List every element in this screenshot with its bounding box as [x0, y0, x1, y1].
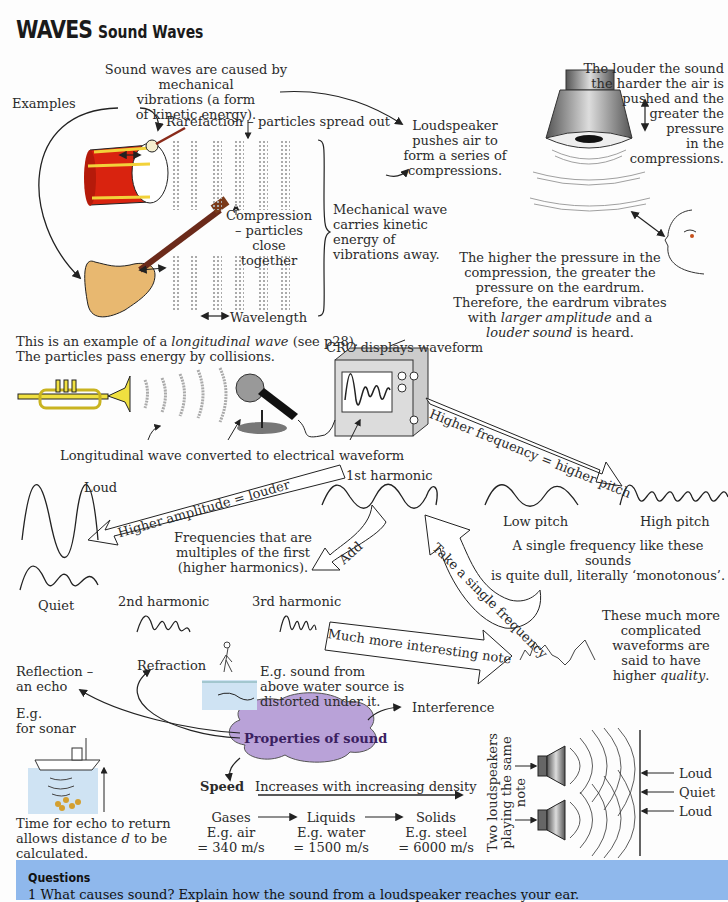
- loud-wave: [22, 485, 98, 558]
- text-line: in the: [560, 136, 724, 151]
- text-span: to be: [130, 831, 167, 846]
- refraction-example: E.g. sound from above water source is di…: [260, 664, 404, 709]
- mechanical-wave-text: Mechanical wave carries kinetic energy o…: [333, 202, 447, 262]
- face-icon: [665, 210, 704, 274]
- medium-speed: = 1500 m/s: [292, 840, 370, 855]
- medium-name: Solids: [396, 810, 476, 825]
- trumpet-icon: [18, 376, 130, 412]
- reflection-label: Reflection – an echo: [16, 664, 93, 694]
- speed-label: Speed: [200, 779, 244, 794]
- text-line: Mechanical wave: [333, 202, 447, 217]
- compression-label: Compression – particles close together: [222, 208, 316, 268]
- text-line: louder sound is heard.: [450, 325, 670, 340]
- text-line: vibrations (a form: [66, 92, 326, 107]
- questions-panel: Questions 1 What causes sound? Explain h…: [16, 860, 728, 900]
- text-line: A single frequency like these sounds: [490, 538, 726, 568]
- text-line: waveforms are: [596, 638, 726, 653]
- text-line: Sound waves are caused by mechanical: [66, 62, 326, 92]
- microphone-icon: [236, 374, 320, 437]
- medium-solids: Solids E.g. steel = 6000 m/s: [396, 810, 476, 855]
- text-line: compressions.: [400, 163, 510, 178]
- louder-text: The louder the sound the harder the air …: [560, 61, 724, 166]
- high-pitch-label: High pitch: [640, 514, 710, 529]
- third-harmonic-label: 3rd harmonic: [252, 594, 341, 609]
- eardrum-text: The higher the pressure in the compressi…: [450, 250, 670, 340]
- monotonous-text: A single frequency like these sounds is …: [490, 538, 726, 583]
- emphasis: louder sound: [486, 325, 572, 340]
- quiet-label: Quiet: [38, 598, 74, 613]
- sonar-label: E.g. for sonar: [16, 706, 76, 736]
- text-line: the harder the air is: [560, 76, 724, 91]
- longitudinal-text: This is an example of a longitudinal wav…: [16, 334, 358, 364]
- emphasis: larger amplitude: [501, 310, 612, 325]
- text-line: distorted under it.: [260, 694, 404, 709]
- interference-loud-2: Loud: [679, 804, 712, 819]
- low-pitch-wave: [485, 485, 578, 506]
- question-1: 1 What causes sound? Explain how the sou…: [28, 887, 579, 902]
- particle-column: [258, 140, 268, 210]
- two-speakers-label: Two loudspeakers playing the same note: [486, 733, 528, 852]
- text-line: allows distance d to be: [16, 831, 171, 846]
- loud-label: Loud: [84, 480, 117, 495]
- text-line: said to have: [596, 653, 726, 668]
- quiet-wave: [20, 566, 98, 590]
- text-line: These much more: [596, 608, 726, 623]
- particle-column: [280, 140, 290, 210]
- second-harmonic-wave: [137, 616, 190, 632]
- text-line: for sonar: [16, 721, 76, 736]
- text-line: greater the: [560, 106, 724, 121]
- text-line: Time for echo to return: [16, 816, 171, 831]
- particle-column: [190, 255, 198, 310]
- text-line: close together: [222, 238, 316, 268]
- text-span: is heard.: [572, 325, 634, 340]
- text-line: with larger amplitude and a: [450, 310, 670, 325]
- particle-column: [234, 140, 244, 210]
- text-span: with: [468, 310, 501, 325]
- refraction-pool-icon: [202, 642, 257, 710]
- text-line: Two loudspeakers: [486, 733, 500, 852]
- density-label: Increases with increasing density: [255, 779, 477, 794]
- medium-speed: = 6000 m/s: [396, 840, 476, 855]
- converted-label: Longitudinal wave converted to electrica…: [60, 448, 404, 463]
- text-line: pressure: [560, 121, 724, 136]
- guitar-icon: [85, 196, 230, 317]
- text-span: higher: [613, 668, 660, 683]
- text-line: The particles pass energy by collisions.: [16, 349, 358, 364]
- particle-column: [212, 255, 222, 310]
- text-line: an echo: [16, 679, 93, 694]
- medium-name: Liquids: [292, 810, 370, 825]
- text-line: is quite dull, literally ‘monotonous’.: [490, 568, 726, 583]
- sound-wave-arcs: [145, 368, 226, 422]
- interference-label: Interference: [412, 700, 494, 715]
- first-harmonic-label: 1st harmonic: [346, 468, 433, 483]
- questions-title: Questions: [28, 870, 90, 885]
- medium-example: E.g. air: [196, 825, 266, 840]
- third-harmonic-wave: [280, 616, 316, 632]
- text-span: and a: [612, 310, 652, 325]
- second-harmonic-label: 2nd harmonic: [118, 594, 209, 609]
- multiples-text: Frequencies that are multiples of the fi…: [168, 530, 318, 575]
- interference-speakers-icon: [515, 728, 674, 858]
- text-line: vibrations away.: [333, 247, 447, 262]
- sonar-ship-icon: [28, 738, 104, 814]
- medium-name: Gases: [196, 810, 266, 825]
- rarefaction-label: Rarefaction – particles spread out: [166, 114, 390, 129]
- interference-quiet: Quiet: [679, 785, 715, 800]
- medium-example: E.g. water: [292, 825, 370, 840]
- medium-liquids: Liquids E.g. water = 1500 m/s: [292, 810, 370, 855]
- text-line: higher quality.: [596, 668, 726, 683]
- text-line: Compression: [222, 208, 316, 223]
- text-line: note: [514, 733, 528, 852]
- text-line: carries kinetic: [333, 217, 447, 232]
- quality-text: These much more complicated waveforms ar…: [596, 608, 726, 683]
- cro-label: CRO displays waveform: [326, 340, 483, 355]
- text-span: This is an example of a: [16, 334, 171, 349]
- wavelength-label: Wavelength: [230, 310, 307, 325]
- first-harmonic-wave: [322, 484, 437, 508]
- text-line: – particles: [222, 223, 316, 238]
- text-line: energy of: [333, 232, 447, 247]
- properties-label: Properties of sound: [244, 731, 387, 746]
- emphasis: d: [121, 831, 129, 846]
- loudspeaker-text: Loudspeaker pushes air to form a series …: [400, 118, 510, 178]
- particle-column: [190, 140, 198, 210]
